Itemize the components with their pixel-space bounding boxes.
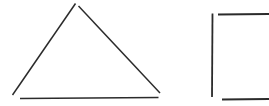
sketch-drawing [0, 0, 269, 106]
rectangle-top-edge-line [218, 14, 269, 15]
triangle-base-line [20, 98, 159, 99]
paper-background [0, 0, 269, 106]
rectangle-bottom-edge-line [222, 99, 269, 100]
rectangle-left-edge-line [212, 14, 213, 98]
sketch-canvas [0, 0, 269, 106]
